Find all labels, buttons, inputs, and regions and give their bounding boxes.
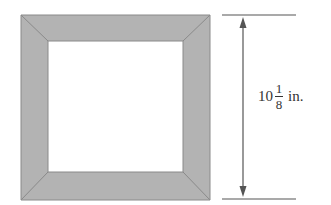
arrowhead-up-icon	[240, 17, 247, 28]
picture-frame	[21, 15, 210, 200]
dimension-unit: in.	[288, 88, 303, 105]
dimension-label: 10 1 8 in.	[258, 82, 303, 111]
dimension-fraction: 1 8	[275, 82, 283, 111]
fraction-numerator: 1	[276, 82, 283, 95]
arrowhead-down-icon	[240, 186, 247, 197]
fraction-denominator: 8	[276, 98, 283, 111]
dimension-whole: 10	[258, 88, 273, 105]
